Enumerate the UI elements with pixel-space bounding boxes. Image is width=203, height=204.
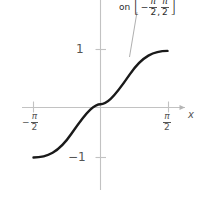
minus-sign-glyph: −: [141, 2, 149, 12]
interval-lower-bound: π 2: [149, 0, 157, 18]
sine-function-plot: 1 −1 x − π 2 π 2 on [ − π 2 ,: [0, 0, 203, 204]
interval-upper-bound: π 2: [161, 0, 169, 18]
x-tick-label-pi-over-2: π 2: [163, 112, 171, 133]
fraction-denominator: 2: [161, 8, 169, 17]
interval-annotation: on [ − π 2 , π 2 ]: [119, 0, 176, 18]
x-axis-label: x: [188, 110, 194, 120]
fraction-denominator: 2: [163, 123, 171, 132]
y-tick-label-negative-1: −1: [68, 151, 86, 163]
x-axis-arrowhead: [180, 105, 186, 110]
fraction-numerator: π: [31, 112, 38, 121]
minus-sign-glyph: −: [22, 117, 30, 127]
interval-separator-comma: ,: [157, 7, 160, 18]
plot-canvas: [0, 0, 203, 204]
fraction-denominator: 2: [31, 123, 39, 132]
annotation-word-on: on: [119, 2, 130, 12]
interval-bounds: − π 2 , π 2: [140, 0, 170, 18]
fraction-numerator: π: [163, 112, 170, 121]
fraction-pi-over-2: π 2: [163, 112, 171, 133]
fraction-numerator: π: [161, 0, 168, 6]
fraction-pi-over-2: π 2: [31, 112, 39, 133]
fraction-denominator: 2: [149, 8, 157, 17]
y-tick-label-1: 1: [76, 43, 84, 55]
fraction-numerator: π: [150, 0, 157, 6]
right-bracket-glyph: ]: [170, 0, 177, 14]
x-tick-label-negative-pi-over-2: − π 2: [22, 112, 38, 133]
annotation-leader-line: [130, 12, 138, 57]
left-bracket-glyph: [: [133, 0, 140, 14]
